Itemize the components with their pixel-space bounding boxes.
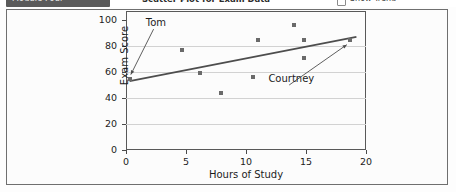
x-axis-title: Hours of Study bbox=[126, 169, 366, 180]
x-tick bbox=[366, 150, 367, 154]
annotation-label-tom: Tom bbox=[146, 17, 166, 28]
x-tick bbox=[246, 150, 247, 154]
data-point bbox=[198, 71, 202, 75]
scatter-chart: 020406080100 05101520 Exam Score Hours o… bbox=[7, 10, 449, 186]
screenshot-root: Module Four Scatter Plot for Exam Data S… bbox=[0, 0, 456, 192]
x-tick-label: 20 bbox=[354, 156, 378, 167]
x-tick-label: 5 bbox=[174, 156, 198, 167]
gridline bbox=[126, 124, 366, 125]
data-point bbox=[251, 75, 255, 79]
page-title: Scatter Plot for Exam Data bbox=[142, 0, 332, 7]
data-point bbox=[302, 38, 306, 42]
module-tab-label: Module Four bbox=[6, 0, 110, 7]
gridline bbox=[126, 46, 366, 47]
plot-frame bbox=[126, 11, 366, 150]
y-tick bbox=[122, 124, 126, 125]
x-tick-label: 10 bbox=[234, 156, 258, 167]
x-tick-label: 0 bbox=[114, 156, 138, 167]
annotation-label-courtney: Courtney bbox=[268, 73, 314, 84]
show-trend-checkbox[interactable] bbox=[337, 0, 346, 6]
data-point bbox=[256, 38, 260, 42]
x-tick bbox=[126, 150, 127, 154]
x-tick-label: 15 bbox=[294, 156, 318, 167]
module-tab[interactable]: Module Four bbox=[6, 0, 110, 7]
y-tick bbox=[122, 98, 126, 99]
data-point bbox=[219, 91, 223, 95]
show-trend-label: Show Trend bbox=[350, 0, 450, 7]
data-point bbox=[302, 56, 306, 60]
y-axis-title: Exam Score bbox=[119, 16, 130, 96]
header-strip: Module Four Scatter Plot for Exam Data S… bbox=[0, 0, 456, 7]
gridline bbox=[126, 72, 366, 73]
gridline bbox=[126, 98, 366, 99]
chart-panel: 020406080100 05101520 Exam Score Hours o… bbox=[6, 9, 448, 185]
data-point-tom bbox=[128, 77, 132, 81]
x-tick bbox=[306, 150, 307, 154]
data-point bbox=[180, 48, 184, 52]
y-axis-title-wrap: Exam Score bbox=[85, 10, 117, 160]
data-point-courtney bbox=[348, 38, 352, 42]
data-point bbox=[292, 23, 296, 27]
x-tick bbox=[186, 150, 187, 154]
